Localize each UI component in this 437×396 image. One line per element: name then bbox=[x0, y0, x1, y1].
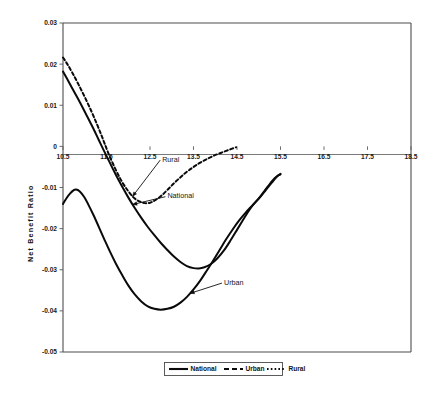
y-axis-title: Net Benefit Ratio bbox=[26, 185, 35, 262]
series-line-rural bbox=[63, 58, 236, 204]
y-axis-tick-labels: 0.030.020.010-0.01-0.02-0.03-0.04-0.05 bbox=[42, 19, 57, 355]
annotation-arrowhead-national bbox=[133, 202, 138, 205]
y-tick-label: 0.02 bbox=[44, 61, 57, 68]
y-tick-label: -0.05 bbox=[42, 348, 57, 355]
y-tick-label: -0.04 bbox=[42, 307, 57, 314]
y-tick-label: -0.02 bbox=[42, 225, 57, 232]
chart-figure: 0.030.020.010-0.01-0.02-0.03-0.04-0.05 1… bbox=[0, 0, 437, 396]
plot-frame bbox=[63, 23, 411, 352]
chart-legend: NationalUrbanRural bbox=[165, 363, 306, 376]
chart-annotations: RuralNationalUrban bbox=[133, 155, 244, 294]
x-tick-label: 16.5 bbox=[318, 153, 331, 160]
series-lines bbox=[63, 58, 281, 310]
y-tick-label: 0.03 bbox=[44, 19, 57, 26]
annotation-label-rural: Rural bbox=[162, 155, 180, 164]
series-line-national bbox=[63, 72, 281, 269]
x-tick-label: 10.5 bbox=[57, 153, 70, 160]
annotation-label-urban: Urban bbox=[224, 278, 244, 287]
x-tick-label: 14.5 bbox=[231, 153, 244, 160]
legend-label-rural: Rural bbox=[289, 365, 306, 372]
x-tick-label: 13.5 bbox=[187, 153, 200, 160]
x-tick-label: 15.5 bbox=[274, 153, 287, 160]
y-tick-label: -0.01 bbox=[42, 184, 57, 191]
net-benefit-ratio-chart: 0.030.020.010-0.01-0.02-0.03-0.04-0.05 1… bbox=[0, 0, 437, 396]
x-tick-label: 18.5 bbox=[405, 153, 418, 160]
y-tick-label: 0 bbox=[53, 143, 57, 150]
annotation-leader-rural bbox=[133, 160, 161, 196]
x-tick-label: 17.5 bbox=[361, 153, 374, 160]
y-tick-label: -0.03 bbox=[42, 266, 57, 273]
y-tick-label: 0.01 bbox=[44, 102, 57, 109]
x-tick-label: 12.5 bbox=[144, 153, 157, 160]
legend-label-urban: Urban bbox=[246, 365, 265, 372]
annotation-label-national: National bbox=[167, 191, 194, 200]
legend-label-national: National bbox=[191, 365, 217, 372]
